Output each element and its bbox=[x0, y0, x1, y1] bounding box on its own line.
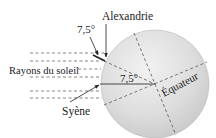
syene-label: Syène bbox=[62, 105, 90, 118]
eratosthenes-diagram: Alexandrie 7,5° Rayons du soleil 7,5° Sy… bbox=[0, 0, 216, 138]
angle-center-label: 7,5° bbox=[120, 72, 138, 84]
alexandrie-label: Alexandrie bbox=[102, 10, 153, 22]
angle-top-label: 7,5° bbox=[77, 23, 95, 35]
alexandrie-stick bbox=[93, 55, 105, 61]
angle-top-arrow bbox=[90, 37, 98, 55]
rays-label: Rayons du soleil bbox=[9, 65, 79, 76]
syene-arrow bbox=[70, 85, 99, 102]
